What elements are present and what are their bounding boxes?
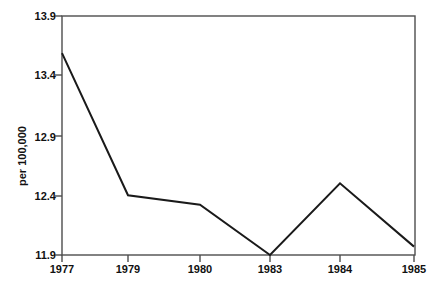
line-chart-figure: per 100,000 13.9 13.4 12.9 12.4 11.9 197…	[0, 0, 433, 286]
y-axis-ticks	[55, 16, 62, 255]
plot-frame	[62, 16, 415, 255]
x-axis-ticks	[62, 255, 414, 262]
plot-area	[0, 0, 433, 286]
data-series-line	[62, 53, 414, 255]
